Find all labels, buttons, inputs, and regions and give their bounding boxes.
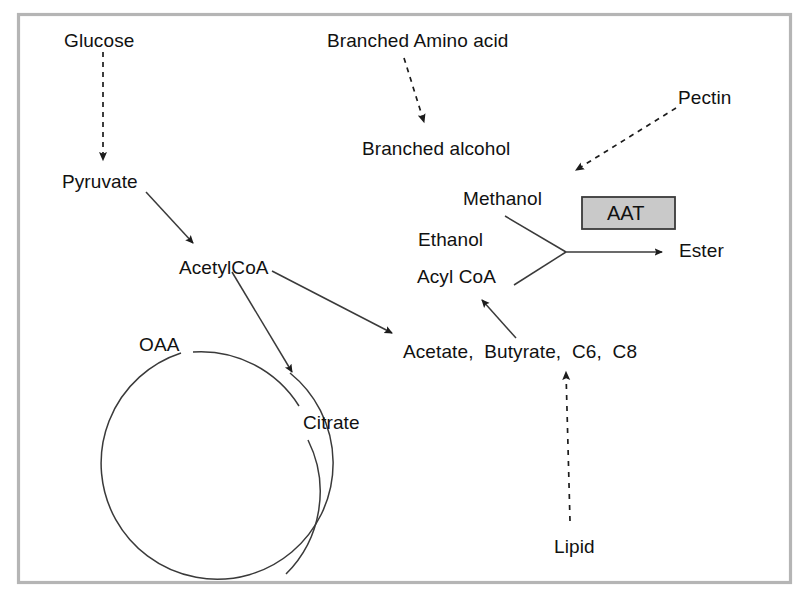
node-oaa: OAA xyxy=(139,335,179,354)
node-pyruvate: Pyruvate xyxy=(62,172,138,191)
node-methanol: Methanol xyxy=(463,189,542,208)
aat-label: AAT xyxy=(607,203,644,223)
edge-pectin-to-methanol xyxy=(576,108,676,170)
node-lipid: Lipid xyxy=(554,537,595,556)
edge-pyruvate-to-acetylcoa xyxy=(146,192,193,243)
tca-cycle-ring xyxy=(101,352,333,579)
node-branched-alcohol: Branched alcohol xyxy=(362,139,510,158)
pathway-diagram: Glucose Branched Amino acid Pectin Branc… xyxy=(0,0,806,604)
node-acyl-coa: Acyl CoA xyxy=(417,267,496,286)
node-glucose: Glucose xyxy=(64,31,134,50)
node-ester: Ester xyxy=(679,241,724,260)
edge-acetylcoa-to-citrate xyxy=(232,272,292,372)
node-acetylcoa: AcetylCoA xyxy=(179,258,269,277)
edge-acetylcoa-to-acetate xyxy=(272,271,392,333)
edge-lipid-to-acetate xyxy=(566,372,570,521)
edge-acetate-to-acylcoa xyxy=(482,300,516,338)
diagram-frame xyxy=(19,15,791,583)
node-ethanol: Ethanol xyxy=(418,230,483,249)
node-citrate: Citrate xyxy=(303,413,360,432)
node-pectin: Pectin xyxy=(678,88,731,107)
node-branched-amino-acid: Branched Amino acid xyxy=(327,31,508,50)
edge-amino-acid-to-branched-alcohol xyxy=(404,58,424,122)
node-acetate-group: Acetate, Butyrate, C6, C8 xyxy=(403,342,637,361)
